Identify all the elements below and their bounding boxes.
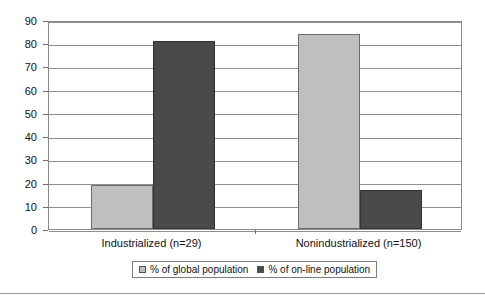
legend-swatch-global-icon: [139, 266, 146, 273]
legend-label: % of global population: [150, 264, 248, 275]
bar-global-population: [298, 34, 360, 229]
y-axis-tick-label: 90: [25, 16, 37, 27]
bar-online-population: [153, 41, 215, 229]
gridline: [49, 22, 461, 23]
gridline: [49, 138, 461, 139]
chart-legend: % of global population% of on-line popul…: [132, 261, 377, 278]
legend-label: % of on-line population: [268, 264, 370, 275]
legend-swatch-online-icon: [257, 266, 264, 273]
y-axis-tick-label: 40: [25, 132, 37, 143]
bar-global-population: [91, 185, 153, 229]
y-axis-tick-label: 20: [25, 178, 37, 189]
y-axis-tick-label: 30: [25, 155, 37, 166]
gridline: [49, 161, 461, 162]
x-axis-tick-mark: [255, 230, 256, 234]
gridline: [49, 68, 461, 69]
legend-entry: % of on-line population: [257, 264, 370, 275]
x-axis-tick-label: Nonindustrialized (n=150): [296, 237, 422, 250]
y-axis-tick-label: 0: [31, 225, 37, 236]
gridline: [49, 114, 461, 115]
bar-online-population: [360, 190, 422, 229]
page-divider-rule: [0, 293, 485, 294]
bar-chart-figure: 0102030405060708090 Industrialized (n=29…: [0, 0, 485, 303]
y-axis-tick-mark: [43, 230, 48, 231]
legend-entry: % of global population: [139, 264, 248, 275]
gridline: [49, 45, 461, 46]
y-axis-tick-label: 50: [25, 108, 37, 119]
y-axis: 0102030405060708090: [0, 0, 48, 252]
y-axis-tick-label: 80: [25, 39, 37, 50]
x-axis-tick-label: Industrialized (n=29): [102, 237, 202, 250]
plot-area: [48, 21, 462, 230]
gridline: [49, 91, 461, 92]
y-axis-tick-label: 60: [25, 85, 37, 96]
y-axis-tick-label: 70: [25, 62, 37, 73]
y-axis-tick-label: 10: [25, 201, 37, 212]
x-axis: Industrialized (n=29)Nonindustrialized (…: [48, 234, 462, 254]
